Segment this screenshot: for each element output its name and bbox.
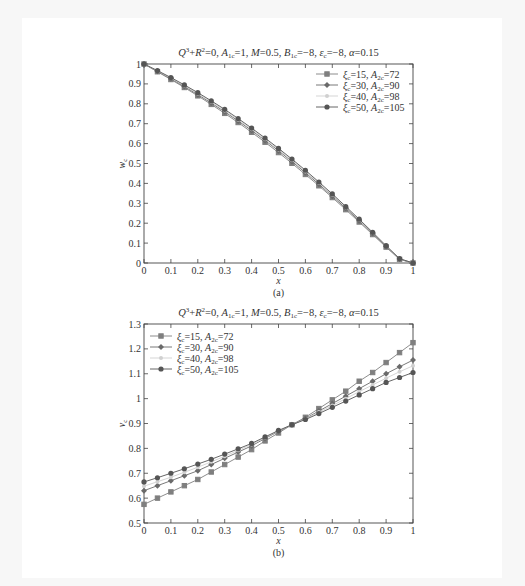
x-tick-label: 1 xyxy=(411,525,416,536)
y-tick-label: 0.3 xyxy=(129,198,142,209)
x-axis-label: x xyxy=(275,275,281,286)
svg-text:Q3+R2=0, A1c=1, M=0.5, B1c=−8,: Q3+R2=0, A1c=1, M=0.5, B1c=−8, εc=−8, α=… xyxy=(178,306,379,320)
x-tick-label: 0.1 xyxy=(165,525,178,536)
figure-canvas: Q3+R2=0, A1c=1, M=0.5, B1c=−8, εc=−8, α=… xyxy=(22,18,502,578)
y-tick-label: 0.4 xyxy=(129,178,142,189)
y-tick-label: 1.2 xyxy=(129,343,142,354)
y-tick-label: 1.3 xyxy=(129,319,142,330)
chart-b: Q3+R2=0, A1c=1, M=0.5, B1c=−8, εc=−8, α=… xyxy=(116,306,416,559)
y-tick-label: 1 xyxy=(136,393,141,404)
y-tick-label: 1 xyxy=(136,59,141,70)
y-tick-label: 0.5 xyxy=(129,518,142,529)
y-tick-label: 0.6 xyxy=(129,493,142,504)
chart-title: Q3+R2=0, A1c=1, M=0.5, B1c=−8, εc=−8, α=… xyxy=(178,46,379,60)
x-tick-label: 1 xyxy=(411,265,416,276)
x-tick-label: 0.7 xyxy=(326,265,339,276)
y-tick-label: 0.5 xyxy=(129,158,142,169)
y-tick-label: 0.6 xyxy=(129,138,142,149)
x-tick-label: 0.2 xyxy=(192,265,205,276)
svg-text:Q3+R2=0, A1c=1, M=0.5, B1c=−8,: Q3+R2=0, A1c=1, M=0.5, B1c=−8, εc=−8, α=… xyxy=(178,46,379,60)
series-4 xyxy=(141,370,415,485)
chart-title: Q3+R2=0, A1c=1, M=0.5, B1c=−8, εc=−8, α=… xyxy=(178,306,379,320)
x-tick-label: 0.8 xyxy=(353,525,366,536)
x-tick-label: 0 xyxy=(142,525,147,536)
legend-item: ξc=50, A2c=105 xyxy=(150,364,238,377)
x-tick-label: 0.3 xyxy=(218,265,231,276)
x-tick-label: 0.9 xyxy=(380,525,393,536)
y-tick-label: 0 xyxy=(136,258,141,269)
y-tick-label: 0.9 xyxy=(129,418,142,429)
subfigure-caption: (b) xyxy=(273,547,285,559)
x-tick-label: 0.7 xyxy=(326,525,339,536)
x-tick-label: 0.4 xyxy=(245,265,258,276)
x-tick-label: 0.2 xyxy=(192,525,205,536)
y-axis-label: vc xyxy=(116,420,129,428)
legend: ξc=15, A2c=72ξc=30, A2c=90ξc=40, A2c=98ξ… xyxy=(316,69,404,115)
chart-a: Q3+R2=0, A1c=1, M=0.5, B1c=−8, εc=−8, α=… xyxy=(116,46,416,299)
legend-item: ξc=50, A2c=105 xyxy=(316,102,404,115)
x-tick-label: 0.6 xyxy=(299,265,312,276)
y-tick-label: 0.7 xyxy=(129,468,142,479)
x-axis-label: x xyxy=(275,535,281,546)
y-tick-label: 0.1 xyxy=(129,238,142,249)
y-tick-label: 1.1 xyxy=(129,368,142,379)
y-axis-label: wc xyxy=(116,159,129,169)
figure-page: Q3+R2=0, A1c=1, M=0.5, B1c=−8, εc=−8, α=… xyxy=(22,18,502,578)
svg-text:ξc=50, A2c=105: ξc=50, A2c=105 xyxy=(343,102,404,115)
x-tick-label: 0.8 xyxy=(353,265,366,276)
x-tick-label: 0.1 xyxy=(165,265,178,276)
x-tick-label: 0.4 xyxy=(245,525,258,536)
subfigure-caption: (a) xyxy=(273,287,284,299)
y-tick-label: 0.8 xyxy=(129,98,142,109)
legend: ξc=15, A2c=72ξc=30, A2c=90ξc=40, A2c=98ξ… xyxy=(150,331,238,377)
x-tick-label: 0.9 xyxy=(380,265,393,276)
y-tick-label: 0.2 xyxy=(129,218,142,229)
x-tick-label: 0.3 xyxy=(218,525,231,536)
x-tick-label: 0 xyxy=(142,265,147,276)
svg-text:ξc=50, A2c=105: ξc=50, A2c=105 xyxy=(177,364,238,377)
y-tick-label: 0.9 xyxy=(129,78,142,89)
y-tick-label: 0.8 xyxy=(129,443,142,454)
x-tick-label: 0.6 xyxy=(299,525,312,536)
y-tick-label: 0.7 xyxy=(129,118,142,129)
